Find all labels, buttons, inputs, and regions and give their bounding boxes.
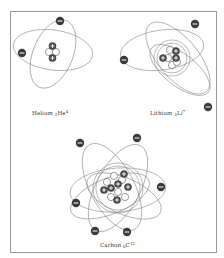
electron-icon [191, 20, 199, 28]
lithium-name: Lithium [150, 110, 172, 116]
lithium-mass-number: 7 [183, 109, 186, 114]
electron-icon [157, 183, 165, 191]
carbon-name: Carbon [100, 242, 121, 248]
electron-icon [56, 17, 64, 25]
helium-atom [11, 13, 96, 95]
electron-icon [133, 134, 141, 142]
electron-icon [18, 49, 26, 57]
helium-mass-number: 4 [66, 109, 69, 114]
lithium-nucleus [159, 46, 180, 68]
electron-icon [120, 56, 128, 64]
lithium-electrons [120, 20, 212, 111]
atom-diagrams [0, 0, 224, 258]
helium-label: Helium 2He4 [32, 109, 68, 117]
lithium-label: Lithium 3Li7 [150, 109, 185, 117]
helium-name: Helium [32, 110, 53, 116]
carbon-label: Carbon 6C12 [100, 241, 135, 249]
lithium-atom [118, 11, 222, 111]
electron-icon [72, 199, 80, 207]
electron-icon [123, 228, 131, 236]
carbon-nucleus [100, 170, 131, 203]
electron-icon [204, 103, 212, 111]
carbon-atom [64, 134, 168, 241]
carbon-mass-number: 12 [130, 241, 135, 246]
electron-icon [91, 227, 99, 235]
helium-nucleus [45, 42, 59, 61]
helium-symbol: He [57, 110, 65, 116]
carbon-orbits [64, 134, 168, 240]
electron-icon [76, 139, 84, 147]
